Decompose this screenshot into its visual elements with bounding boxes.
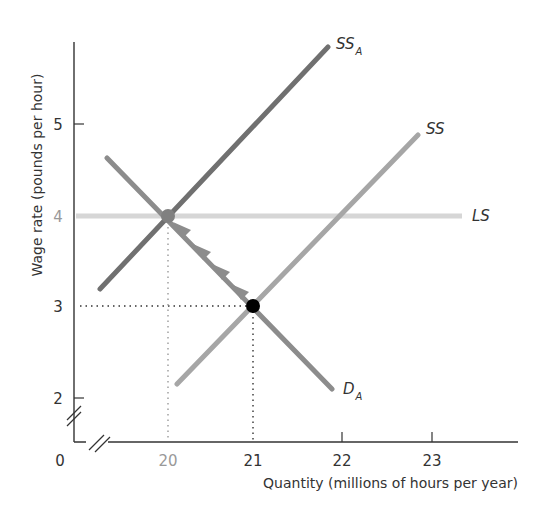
ss-label: SS — [426, 120, 445, 138]
x-tick-label-23: 23 — [422, 452, 441, 470]
x-axis-break-icon — [86, 430, 110, 452]
axes — [67, 42, 518, 452]
ls-label: LS — [472, 207, 490, 225]
initial-equilibrium-point — [246, 299, 260, 313]
da-label-sub: A — [355, 391, 363, 402]
x-ticks — [342, 432, 432, 442]
ssa-label-sub: A — [355, 46, 363, 57]
ssa-curve — [100, 47, 328, 289]
y-ticks — [74, 124, 84, 398]
guide-lines — [80, 216, 253, 440]
labour-market-chart: 5 4 3 2 0 20 21 22 23 Quantity (millions… — [0, 0, 548, 520]
movement-arrows — [173, 222, 249, 300]
y-tick-label-4: 4 — [53, 208, 63, 226]
ssa-label: SSA — [336, 35, 363, 57]
da-label: DA — [343, 380, 363, 402]
y-tick-label-2: 2 — [53, 390, 63, 408]
new-equilibrium-point — [161, 209, 175, 223]
da-label-main: D — [343, 380, 355, 398]
x-tick-label-21: 21 — [243, 452, 262, 470]
ssa-label-main: SS — [336, 35, 355, 53]
x-axis-title: Quantity (millions of hours per year) — [263, 475, 518, 491]
y-tick-label-5: 5 — [53, 116, 63, 134]
x-tick-label-22: 22 — [332, 452, 351, 470]
y-axis-title: Wage rate (pounds per hour) — [29, 74, 45, 277]
x-tick-label-20: 20 — [158, 452, 177, 470]
origin-label: 0 — [55, 452, 65, 470]
y-tick-label-3: 3 — [53, 298, 63, 316]
